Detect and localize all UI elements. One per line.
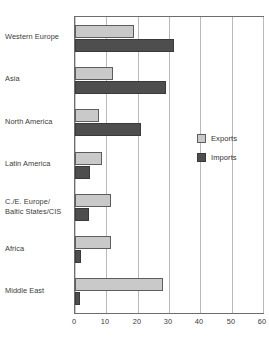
- bar-imports-2: [75, 123, 141, 136]
- square-swatch-light-icon: [197, 134, 206, 143]
- x-tick-30: 30: [164, 317, 172, 326]
- bar-exports-5: [75, 236, 111, 249]
- gridline-60: [263, 17, 264, 313]
- horizontal-bar-chart: Western EuropeAsiaNorth AmericaLatin Ame…: [0, 0, 269, 346]
- legend-label-0: Exports: [211, 134, 237, 143]
- x-tick-0: 0: [72, 317, 76, 326]
- bar-exports-1: [75, 67, 113, 80]
- square-swatch-dark-icon: [197, 153, 206, 162]
- bar-imports-0: [75, 39, 174, 52]
- plot-inner: ExportsImports: [75, 17, 263, 313]
- x-tick-50: 50: [227, 317, 235, 326]
- chart-legend: ExportsImports: [197, 131, 261, 169]
- x-tick-60: 60: [258, 317, 266, 326]
- plot-area: ExportsImports: [74, 16, 264, 314]
- legend-item-exports[interactable]: Exports: [197, 131, 261, 146]
- category-label-2: North America: [0, 117, 68, 126]
- legend-item-imports[interactable]: Imports: [197, 150, 261, 165]
- category-label-1: Asia: [0, 75, 68, 84]
- bar-imports-3: [75, 166, 90, 179]
- category-label-0: Western Europe: [0, 32, 68, 41]
- x-tick-40: 40: [195, 317, 203, 326]
- category-label-3: Latin America: [0, 159, 68, 168]
- category-label-4: C./E. Europe/ Baltic States/CIS: [0, 197, 68, 216]
- category-axis-labels: Western EuropeAsiaNorth AmericaLatin Ame…: [0, 16, 70, 312]
- category-label-6: Middle East: [0, 286, 68, 295]
- bar-exports-6: [75, 278, 163, 291]
- gridline-20: [138, 17, 139, 313]
- legend-label-1: Imports: [211, 153, 237, 162]
- bar-exports-0: [75, 25, 134, 38]
- category-label-5: Africa: [0, 244, 68, 253]
- bar-imports-6: [75, 292, 80, 305]
- x-axis-tick-labels: 0102030405060: [74, 314, 264, 334]
- bar-exports-2: [75, 109, 99, 122]
- bar-imports-4: [75, 208, 89, 221]
- x-tick-20: 20: [133, 317, 141, 326]
- bar-exports-4: [75, 194, 111, 207]
- bar-imports-1: [75, 81, 166, 94]
- x-tick-10: 10: [101, 317, 109, 326]
- gridline-30: [169, 17, 170, 313]
- bar-exports-3: [75, 152, 102, 165]
- bar-imports-5: [75, 250, 81, 263]
- gridline-10: [106, 17, 107, 313]
